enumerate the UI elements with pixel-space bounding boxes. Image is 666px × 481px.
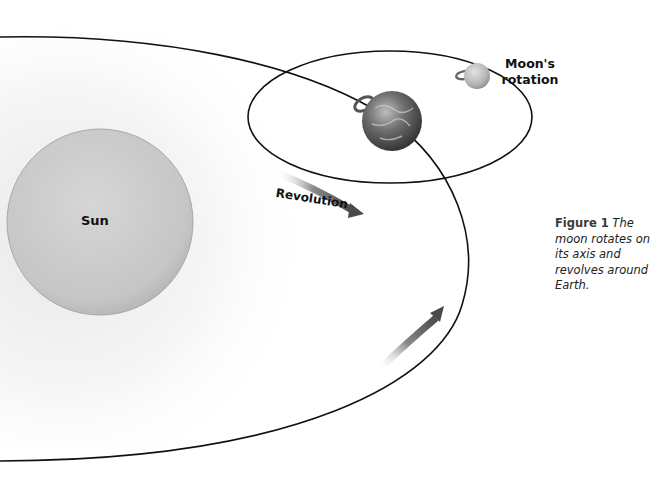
moon-rotation-label-line1: Moon's (498, 56, 562, 72)
moon-rotation-label-line2: rotation (498, 72, 562, 88)
moon-rotation-label: Moon's rotation (498, 56, 562, 88)
figure-number: Figure 1 (555, 216, 609, 230)
sun-label: Sun (81, 213, 109, 228)
moon-orbit-diagram: Sun Moon's rotation Revolution Figure 1 … (0, 0, 666, 481)
figure-caption: Figure 1 The moon rotates on its axis an… (555, 216, 665, 294)
moon-sphere (464, 63, 490, 89)
